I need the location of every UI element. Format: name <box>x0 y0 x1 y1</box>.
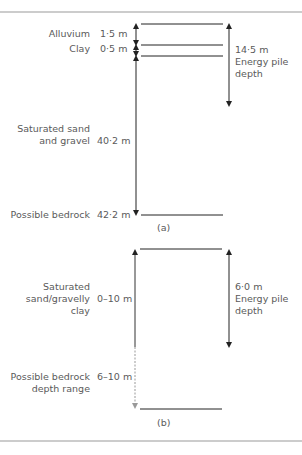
pile-label-b-1: Energy pile <box>235 293 288 305</box>
layer-name-b2-2: depth range <box>32 383 90 395</box>
layer-name-bedrock: Possible bedrock <box>11 209 90 221</box>
layer-name-clay: Clay <box>69 43 90 55</box>
layer-name-b1-2: sand/gravelly <box>26 293 90 305</box>
layer-name-alluvium: Alluvium <box>49 28 90 40</box>
bedrock-depth: 42·2 m <box>97 209 130 221</box>
layer-name-b1-1: Saturated <box>43 281 90 293</box>
layer-name-b1-3: clay <box>71 305 90 317</box>
layer-name-sand-gravel-1: Saturated sand <box>17 123 90 135</box>
layer-thickness-b1: 0–10 m <box>97 293 132 305</box>
caption-a: (a) <box>157 222 170 234</box>
layer-name-sand-gravel-2: and gravel <box>39 135 90 147</box>
layer-name-b2-1: Possible bedrock <box>11 371 90 383</box>
layer-thickness-sand-gravel: 40·2 m <box>97 135 130 147</box>
layer-thickness-clay: 0·5 m <box>100 43 127 55</box>
layer-thickness-alluvium: 1·5 m <box>100 28 127 40</box>
pile-label-a-2: depth <box>235 68 263 80</box>
pile-label-b-2: depth <box>235 305 263 317</box>
layer-thickness-b2: 6–10 m <box>97 371 132 383</box>
pile-label-a-1: Energy pile <box>235 56 288 68</box>
pile-depth-b: 6·0 m <box>235 281 262 293</box>
pile-depth-a: 14·5 m <box>235 44 268 56</box>
caption-b: (b) <box>157 417 170 429</box>
